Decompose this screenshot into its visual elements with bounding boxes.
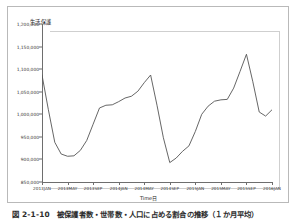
y-axis-tick-label: 900,000: [0, 157, 39, 162]
x-axis-tick-label: 2014MAY: [135, 186, 154, 191]
x-axis-tick-label: 2015SEP: [237, 186, 256, 191]
y-axis-tick-label: 1,200,000: [0, 22, 39, 27]
x-axis-tick-label: 2016JAN: [263, 186, 281, 191]
figure-caption: 図 2-1-10 被保護者数・世帯数・人口に占める割合の推移（１か月平均）: [12, 208, 285, 219]
y-axis-tick-label: 1,100,000: [0, 67, 39, 72]
x-axis-tick-label: 2015MAY: [211, 186, 230, 191]
x-axis-tick-label: 2013JAN: [33, 186, 51, 191]
series-line: [42, 24, 272, 182]
x-axis-tick-mark: [170, 182, 171, 185]
x-axis-tick-mark: [119, 182, 120, 185]
x-axis-tick-label: 2014JAN: [110, 186, 128, 191]
y-axis-tick-label: 1,150,000: [0, 44, 39, 49]
y-axis-tick-label: 1,000,000: [0, 112, 39, 117]
x-axis-tick-mark: [272, 182, 273, 185]
x-axis-tick-mark: [68, 182, 69, 185]
y-axis-tick-label: 850,000: [0, 180, 39, 185]
y-axis-tick-label: 950,000: [0, 134, 39, 139]
x-axis-label: Time日: [0, 194, 297, 201]
x-axis-tick-mark: [221, 182, 222, 185]
x-axis-tick-mark: [42, 182, 43, 185]
chart-screenshot: 生活保護 1,200,0001,150,0001,100,0001,050,00…: [0, 0, 297, 220]
x-axis-tick-label: 2013SEP: [84, 186, 103, 191]
x-axis-tick-label: 2013MAY: [58, 186, 77, 191]
x-axis-tick-mark: [195, 182, 196, 185]
x-axis-tick-label: 2014SEP: [161, 186, 180, 191]
x-axis-line: [42, 182, 273, 183]
x-axis-tick-mark: [246, 182, 247, 185]
y-axis-tick-label: 1,050,000: [0, 89, 39, 94]
x-axis-tick-mark: [144, 182, 145, 185]
x-axis-tick-mark: [93, 182, 94, 185]
x-axis-tick-label: 2015JAN: [186, 186, 204, 191]
